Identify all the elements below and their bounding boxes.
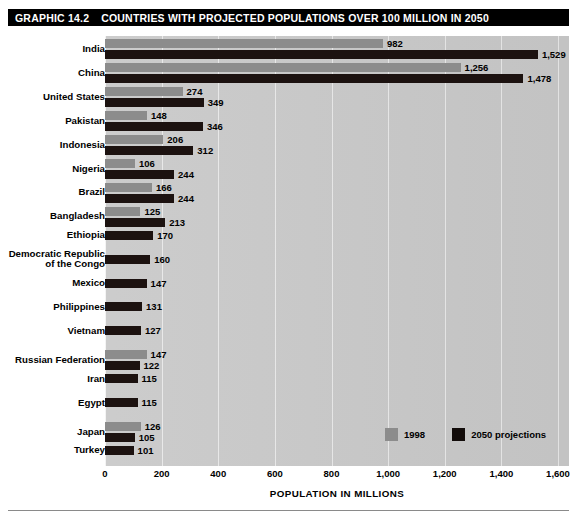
x-axis-tick: 200 (154, 468, 170, 479)
x-axis-tick: 0 (102, 468, 107, 479)
bar-1998 (105, 111, 147, 120)
bar-value-1998: 982 (387, 39, 403, 48)
x-axis-label: POPULATION IN MILLIONS (105, 488, 569, 499)
bar-1998 (105, 350, 147, 359)
bar-value-2050: 127 (145, 326, 161, 335)
category-label: United States (43, 92, 105, 103)
category-label: Turkey (74, 445, 105, 456)
legend-label: 2050 projections (471, 429, 546, 440)
bar-2050 (105, 98, 204, 107)
bar-2050 (105, 122, 203, 131)
bar-value-2050: 105 (139, 433, 155, 442)
bar-value-1998: 106 (139, 159, 155, 168)
bar-2050 (105, 433, 135, 442)
category-label: Russian Federation (15, 355, 105, 366)
bar-row: Mexico147 (0, 279, 577, 301)
bar-2050 (105, 398, 138, 407)
category-label: Iran (87, 374, 105, 385)
bar-value-2050: 244 (178, 170, 194, 179)
chart-legend: 19982050 projections (385, 428, 546, 441)
bar-2050 (105, 279, 147, 288)
bar-value-2050: 349 (208, 98, 224, 107)
bar-row: United States274349 (0, 87, 577, 109)
category-label: Mexico (72, 278, 105, 289)
bar-value-1998: 125 (144, 207, 160, 216)
bar-value-1998: 166 (156, 183, 172, 192)
bar-value-1998: 147 (151, 350, 167, 359)
bar-1998 (105, 159, 135, 168)
bar-row: Pakistan148346 (0, 111, 577, 133)
bar-1998 (105, 39, 383, 48)
legend-swatch-1998 (385, 428, 398, 441)
bar-2050 (105, 74, 523, 83)
x-axis-tick: 800 (324, 468, 340, 479)
x-axis-ticks: 02004006008001,0001,2001,4001,600 (0, 468, 577, 482)
bar-value-2050: 213 (169, 218, 185, 227)
bar-2050 (105, 146, 193, 155)
bar-value-2050: 1,478 (527, 74, 551, 83)
bar-2050 (105, 361, 140, 370)
category-label: Indonesia (60, 140, 105, 151)
bar-value-2050: 115 (142, 374, 157, 383)
legend-item: 1998 (385, 428, 425, 441)
bar-row: Russian Federation147122 (0, 350, 577, 372)
bar-row: Bangladesh125213 (0, 207, 577, 229)
graphic-title-bar: GRAPHIC 14.2 COUNTRIES WITH PROJECTED PO… (8, 9, 569, 26)
bar-value-1998: 206 (167, 135, 183, 144)
category-label: Philippines (53, 302, 105, 313)
bar-value-2050: 244 (178, 194, 194, 203)
bar-1998 (105, 422, 141, 431)
bar-row: Nigeria106244 (0, 159, 577, 181)
bar-2050 (105, 255, 150, 264)
bar-2050 (105, 170, 174, 179)
bar-row: Turkey101 (0, 446, 577, 468)
page-title: COUNTRIES WITH PROJECTED POPULATIONS OVE… (101, 12, 489, 24)
category-label: Japan (77, 427, 105, 438)
category-label: Bangladesh (50, 211, 105, 222)
legend-item: 2050 projections (452, 428, 546, 441)
bar-2050 (105, 231, 153, 240)
bar-2050 (105, 194, 174, 203)
bar-value-2050: 160 (154, 255, 170, 264)
graphic-number: GRAPHIC 14.2 (15, 12, 89, 24)
bar-row: Vietnam127 (0, 326, 577, 348)
bar-rows: India9821,529China1,2561,478United State… (0, 30, 577, 466)
bar-2050 (105, 326, 141, 335)
bar-value-2050: 101 (138, 446, 154, 455)
footer-divider (8, 510, 569, 511)
bar-value-1998: 1,256 (465, 63, 489, 72)
bar-value-2050: 122 (144, 361, 160, 370)
bar-value-2050: 115 (142, 398, 157, 407)
bar-2050 (105, 374, 138, 383)
category-label: Egypt (78, 398, 105, 409)
category-label: Brazil (79, 187, 105, 198)
x-axis-tick: 600 (267, 468, 283, 479)
legend-swatch-2050 (452, 428, 465, 441)
bar-chart: India9821,529China1,2561,478United State… (0, 30, 577, 516)
bar-row: Philippines131 (0, 302, 577, 324)
bar-row: Brazil166244 (0, 183, 577, 205)
x-axis-tick: 1,200 (433, 468, 457, 479)
bar-value-2050: 346 (207, 122, 223, 131)
bar-2050 (105, 446, 134, 455)
bar-1998 (105, 183, 152, 192)
bar-value-1998: 126 (145, 422, 161, 431)
bar-row: China1,2561,478 (0, 63, 577, 85)
bar-value-2050: 170 (157, 231, 173, 240)
bar-value-2050: 1,529 (542, 50, 566, 59)
bar-value-1998: 274 (187, 87, 203, 96)
bar-1998 (105, 135, 163, 144)
category-label: Pakistan (65, 116, 105, 127)
bar-2050 (105, 50, 538, 59)
bar-row: Iran115 (0, 374, 577, 396)
bar-row: Indonesia206312 (0, 135, 577, 157)
category-label: Vietnam (67, 326, 105, 337)
category-label: China (78, 68, 105, 79)
x-axis-tick: 1,000 (376, 468, 400, 479)
bar-row: India9821,529 (0, 39, 577, 61)
bar-value-1998: 148 (151, 111, 167, 120)
bar-2050 (105, 302, 142, 311)
legend-label: 1998 (404, 429, 425, 440)
category-label: Democratic Republic of the Congo (9, 249, 105, 270)
bar-1998 (105, 207, 140, 216)
